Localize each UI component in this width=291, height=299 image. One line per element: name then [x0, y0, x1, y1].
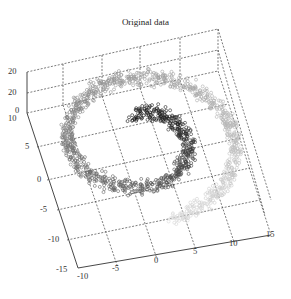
y-tick-label: -10 — [48, 234, 59, 244]
y-tick-label: 10 — [8, 113, 17, 123]
y-tick-label: -5 — [40, 204, 47, 214]
x-tick-label: -10 — [77, 271, 88, 281]
y-tick-label: -15 — [56, 264, 67, 274]
x-tick-label: 15 — [266, 229, 275, 239]
x-tick-label: -5 — [112, 263, 119, 273]
y-tick-label: 5 — [25, 141, 29, 151]
z-tick-label: 20 — [8, 66, 17, 76]
scatter-points — [60, 67, 243, 225]
z-tick-label: 20 — [8, 87, 17, 97]
x-tick-label: 0 — [154, 255, 158, 265]
x-tick-label: 10 — [229, 238, 238, 248]
plot-3d-axes — [0, 0, 291, 299]
y-tick-label: 0 — [37, 174, 41, 184]
x-tick-label: 5 — [193, 246, 197, 256]
